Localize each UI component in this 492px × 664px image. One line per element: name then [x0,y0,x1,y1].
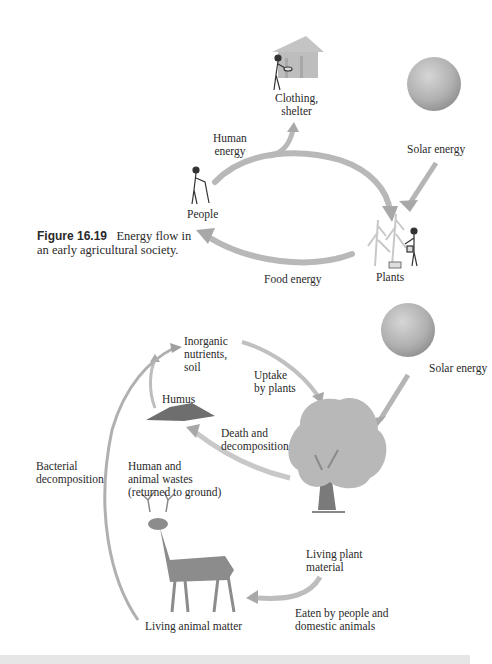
tree-icon [288,398,386,512]
label-solar-energy-bottom: Solar energy [429,362,487,375]
label-eaten-by: Eaten by people and domestic animals [295,607,389,633]
label-humus: Humus [162,393,195,406]
corn-plants-icon [368,214,406,266]
humus-to-nutrients-arrow [150,360,155,408]
label-death-decomposition: Death and decomposition [221,427,289,453]
eaten-by-arrow [258,577,320,598]
page-bottom-strip [0,655,470,664]
figure-caption: Figure 16.19 Energy flow in an early agr… [37,229,197,257]
diagram-artwork [0,0,492,664]
label-living-plant-material: Living plant material [306,548,363,574]
label-uptake-by-plants: Uptake by plants [254,369,296,395]
sun-icon-top [407,57,461,111]
label-clothing-shelter: Clothing, shelter [275,92,318,118]
label-living-animal-matter: Living animal matter [145,620,242,633]
solar-to-tree-arrow [380,375,408,420]
label-human-animal-wastes: Human and animal wastes (returned to gro… [128,460,221,499]
figure-number: Figure 16.19 [37,229,107,243]
label-inorganic-nutrients: Inorganic nutrients, soil [184,335,228,374]
label-solar-energy-top: Solar energy [407,143,465,156]
solar-to-plants-arrow-top [410,163,436,203]
label-people: People [187,208,218,221]
label-food-energy: Food energy [264,273,322,286]
label-bacterial-decomposition: Bacterial decomposition [36,460,104,486]
sun-icon-bottom [381,303,435,357]
farmer-icon [405,228,417,266]
food-energy-arrow [210,238,352,262]
deer-icon [142,492,234,612]
label-human-energy: Human energy [213,132,247,158]
basket-icon [389,262,401,268]
human-energy-arrow [215,153,390,212]
label-plants: Plants [376,271,404,284]
person-with-hoe-icon [192,167,209,204]
